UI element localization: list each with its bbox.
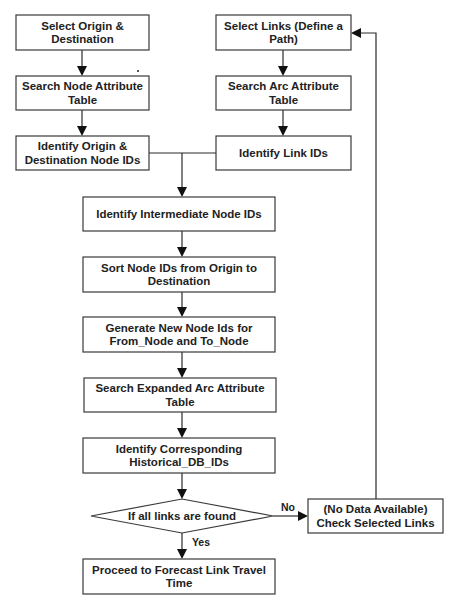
node-label: Historical_DB_IDs — [129, 456, 229, 468]
edge-label-no: No — [281, 501, 295, 513]
stray-dot — [137, 70, 139, 72]
node-label: Proceed to Forecast Link Travel — [92, 564, 266, 576]
node-select-links: Select Links (Define aPath) — [216, 15, 351, 50]
arrowhead-down-icon — [77, 66, 87, 76]
node-proceed-forecast: Proceed to Forecast Link TravelTime — [83, 559, 275, 594]
node-label: Identify Link IDs — [239, 147, 328, 159]
node-label: Table — [68, 94, 97, 106]
node-label: Table — [165, 396, 194, 408]
arrowhead-down-icon — [177, 247, 187, 257]
node-label: Identify Origin & — [38, 140, 127, 152]
node-sort-node-ids: Sort Node IDs from Origin toDestination — [83, 257, 275, 292]
node-label: Destination — [148, 275, 211, 287]
node-label: Destination Node IDs — [25, 154, 141, 166]
node-label: Generate New Node Ids for — [106, 322, 254, 334]
node-identify-link-ids: Identify Link IDs — [216, 136, 351, 170]
node-label: Table — [269, 94, 298, 106]
node-search-expanded-arc: Search Expanded Arc AttributeTable — [84, 378, 276, 412]
node-check-selected: (No Data Available)Check Selected Links — [308, 499, 443, 533]
node-decision-all-found: If all links are found — [91, 499, 273, 533]
node-label: Path) — [269, 33, 298, 45]
node-label: Select Links (Define a — [224, 20, 343, 32]
arrowhead-down-icon — [177, 307, 187, 317]
node-label: From_Node and To_Node — [109, 335, 248, 347]
arrowhead-right-icon — [298, 511, 308, 521]
edge-label-yes: Yes — [192, 536, 210, 548]
node-label: Identify Intermediate Node IDs — [96, 208, 262, 220]
node-select-od: Select Origin &Destination — [16, 15, 149, 50]
node-label: Search Expanded Arc Attribute — [95, 382, 264, 394]
arrowhead-down-icon — [177, 428, 187, 438]
arrowhead-down-icon — [278, 126, 288, 136]
edge-feedback-loop — [361, 33, 376, 499]
arrowhead-down-icon — [177, 549, 187, 559]
node-label: Sort Node IDs from Origin to — [101, 262, 257, 274]
nodes-layer: Select Origin &DestinationSearch Node At… — [16, 15, 443, 594]
node-identify-intermediate: Identify Intermediate Node IDs — [83, 197, 275, 231]
node-label: Search Node Attribute — [22, 80, 143, 92]
node-identify-od-nodes: Identify Origin &Destination Node IDs — [16, 136, 149, 170]
node-label: Check Selected Links — [316, 517, 434, 529]
arrowhead-down-icon — [77, 126, 87, 136]
node-label: Search Arc Attribute — [228, 80, 339, 92]
arrowhead-down-icon — [177, 368, 187, 378]
arrowhead-down-icon — [177, 489, 187, 499]
arrowhead-left-icon — [351, 28, 361, 38]
node-label: Identify Corresponding — [116, 443, 243, 455]
node-label: If all links are found — [128, 510, 236, 522]
node-label: Select Origin & — [41, 20, 123, 32]
arrowhead-down-icon — [177, 187, 187, 197]
node-identify-historical: Identify CorrespondingHistorical_DB_IDs — [83, 438, 275, 473]
flowchart-diagram: NoYes Select Origin &DestinationSearch N… — [0, 0, 458, 606]
node-search-node-attr: Search Node AttributeTable — [16, 76, 149, 110]
node-label: Destination — [51, 33, 114, 45]
arrowhead-down-icon — [278, 66, 288, 76]
node-label: Time — [166, 577, 193, 589]
node-search-arc-attr: Search Arc AttributeTable — [216, 76, 351, 110]
node-label: (No Data Available) — [324, 503, 428, 515]
node-generate-new-ids: Generate New Node Ids forFrom_Node and T… — [83, 317, 275, 352]
